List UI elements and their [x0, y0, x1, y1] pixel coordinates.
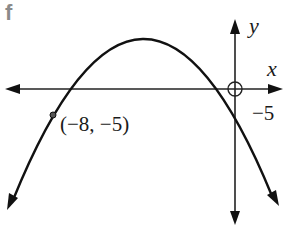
parabola-curve [13, 39, 272, 200]
y-intercept-label: −5 [252, 101, 274, 126]
point-marker-icon [50, 112, 56, 118]
curve-right-arrow-icon [267, 190, 279, 206]
y-axis-down-arrow-icon [230, 211, 240, 225]
y-axis-up-arrow-icon [230, 19, 240, 34]
x-axis-right-arrow-icon [268, 84, 283, 94]
curve-left-arrow-icon [7, 193, 18, 210]
y-axis-label: y [249, 13, 259, 39]
point-coordinate-label: (−8, −5) [60, 112, 129, 137]
x-axis-label: x [267, 56, 277, 82]
parabola-figure: f y x −5 (−8, −5) [0, 0, 287, 225]
part-label: f [5, 0, 12, 26]
x-axis-left-arrow-icon [5, 84, 20, 94]
graph-canvas [0, 0, 287, 225]
